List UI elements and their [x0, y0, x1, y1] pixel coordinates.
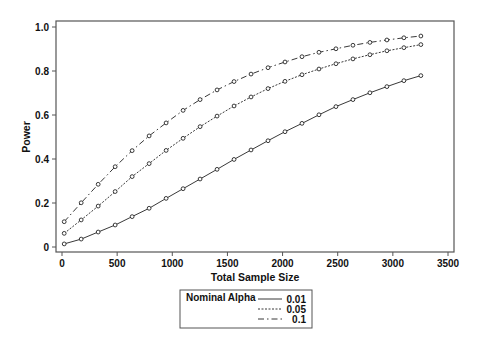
- power-curve-chart: 00.20.40.60.81.0 05001000150020002500300…: [0, 0, 483, 350]
- data-point-marker: [351, 43, 355, 47]
- data-point-marker: [181, 136, 185, 140]
- data-point-marker: [79, 218, 83, 222]
- y-axis-title: Power: [20, 121, 32, 153]
- x-tick-label: 3500: [437, 258, 460, 269]
- data-point-marker: [249, 72, 253, 76]
- data-point-marker: [198, 177, 202, 181]
- data-point-marker: [130, 215, 134, 219]
- data-point-marker: [164, 196, 168, 200]
- data-point-marker: [317, 113, 321, 117]
- data-point-marker: [215, 114, 219, 118]
- data-point-marker: [96, 182, 100, 186]
- data-point-marker: [419, 43, 423, 47]
- data-point-marker: [164, 149, 168, 153]
- data-point-marker: [62, 242, 66, 246]
- data-point-marker: [419, 34, 423, 38]
- x-tick-label: 500: [109, 258, 126, 269]
- data-point-marker: [130, 175, 134, 179]
- data-point-marker: [130, 149, 134, 153]
- data-point-marker: [402, 36, 406, 40]
- plot-frame: [56, 21, 454, 252]
- data-point-marker: [419, 74, 423, 78]
- legend-title: Nominal Alpha: [186, 292, 256, 303]
- data-point-marker: [215, 88, 219, 92]
- data-point-marker: [368, 53, 372, 57]
- data-point-marker: [147, 206, 151, 210]
- data-point-marker: [96, 230, 100, 234]
- data-point-marker: [368, 91, 372, 95]
- data-point-marker: [249, 148, 253, 152]
- data-point-marker: [62, 231, 66, 235]
- data-point-marker: [164, 121, 168, 125]
- y-tick-label: 0: [43, 242, 49, 253]
- data-point-marker: [62, 220, 66, 224]
- x-tick-label: 0: [59, 258, 65, 269]
- x-tick-label: 1000: [161, 258, 184, 269]
- data-point-marker: [181, 108, 185, 112]
- x-axis: 0500100015002000250030003500: [59, 252, 459, 269]
- data-point-marker: [147, 134, 151, 138]
- data-point-marker: [334, 62, 338, 66]
- data-point-marker: [232, 158, 236, 162]
- data-point-marker: [317, 67, 321, 71]
- data-point-marker: [300, 121, 304, 125]
- data-point-marker: [232, 104, 236, 108]
- data-point-marker: [113, 165, 117, 169]
- data-point-marker: [181, 187, 185, 191]
- data-point-marker: [79, 201, 83, 205]
- data-point-marker: [300, 73, 304, 77]
- data-point-marker: [385, 85, 389, 89]
- y-axis: 00.20.40.60.81.0: [35, 22, 56, 253]
- x-axis-title: Total Sample Size: [211, 271, 300, 283]
- x-tick-label: 2000: [271, 258, 294, 269]
- x-tick-label: 1500: [216, 258, 239, 269]
- data-point-marker: [334, 47, 338, 51]
- data-point-marker: [147, 162, 151, 166]
- data-point-marker: [266, 139, 270, 143]
- data-point-marker: [300, 55, 304, 59]
- y-tick-label: 0.2: [35, 198, 49, 209]
- data-point-marker: [232, 80, 236, 84]
- data-point-marker: [266, 66, 270, 70]
- data-point-marker: [385, 38, 389, 42]
- data-point-marker: [215, 167, 219, 171]
- data-point-marker: [317, 50, 321, 54]
- x-tick-label: 2500: [327, 258, 350, 269]
- data-point-marker: [198, 125, 202, 129]
- data-point-marker: [351, 98, 355, 102]
- data-point-marker: [79, 237, 83, 241]
- data-point-marker: [283, 60, 287, 64]
- data-point-marker: [385, 49, 389, 53]
- data-point-marker: [198, 98, 202, 102]
- data-point-marker: [96, 204, 100, 208]
- legend-label: 0.1: [292, 314, 306, 325]
- legend: Nominal Alpha 0.010.050.1: [180, 290, 312, 328]
- data-point-marker: [283, 130, 287, 134]
- y-tick-label: 0.8: [35, 66, 49, 77]
- data-point-marker: [283, 79, 287, 83]
- data-point-marker: [334, 105, 338, 109]
- y-tick-label: 1.0: [35, 22, 49, 33]
- data-point-marker: [402, 79, 406, 83]
- data-point-marker: [113, 223, 117, 227]
- data-point-marker: [402, 46, 406, 50]
- data-point-marker: [351, 57, 355, 61]
- data-point-marker: [266, 87, 270, 91]
- data-point-marker: [113, 190, 117, 194]
- data-point-marker: [249, 95, 253, 99]
- y-tick-label: 0.6: [35, 110, 49, 121]
- data-point-marker: [368, 41, 372, 45]
- x-tick-label: 3000: [382, 258, 405, 269]
- y-tick-label: 0.4: [35, 154, 49, 165]
